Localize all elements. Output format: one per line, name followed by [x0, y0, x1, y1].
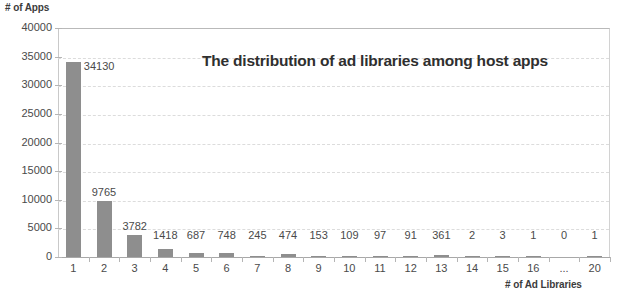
bar — [66, 62, 81, 257]
y-axis-title: # of Apps — [5, 2, 49, 13]
y-tick-label: 30000 — [2, 78, 52, 90]
bar — [465, 256, 480, 257]
bar — [373, 256, 388, 257]
y-tick-label: 25000 — [2, 107, 52, 119]
y-tick-label: 40000 — [2, 21, 52, 33]
x-tick-label: 20 — [575, 262, 615, 274]
y-tick-mark — [55, 57, 62, 58]
gridline — [58, 86, 609, 87]
bar — [526, 256, 541, 257]
bar — [158, 249, 173, 257]
y-tick-label: 15000 — [2, 164, 52, 176]
chart-title: The distribution of ad libraries among h… — [160, 52, 590, 70]
y-tick-mark — [55, 114, 62, 115]
bar-value-label: 9765 — [82, 186, 126, 198]
y-tick-mark — [55, 85, 62, 86]
bar — [434, 255, 449, 257]
bar — [250, 256, 265, 257]
bar — [219, 253, 234, 257]
x-axis-title: # of Ad Libraries — [505, 279, 582, 290]
y-tick-label: 10000 — [2, 193, 52, 205]
y-tick-mark — [55, 171, 62, 172]
y-tick-label: 5000 — [2, 221, 52, 233]
bar — [97, 201, 112, 257]
bar — [127, 235, 142, 257]
bar — [587, 256, 602, 257]
bar — [403, 256, 418, 257]
bar — [495, 256, 510, 257]
bar — [281, 254, 296, 257]
bar-chart: # of Apps 050001000015000200002500030000… — [0, 0, 618, 296]
gridline — [58, 172, 609, 173]
bar-value-label: 34130 — [84, 60, 130, 72]
gridline — [58, 201, 609, 202]
y-tick-mark — [55, 28, 62, 29]
y-tick-mark — [55, 228, 62, 229]
y-tick-label: 20000 — [2, 136, 52, 148]
bar — [189, 253, 204, 257]
y-tick-mark — [55, 200, 62, 201]
bar — [342, 256, 357, 257]
x-tick-mark — [610, 257, 611, 262]
bar-value-label: 1 — [573, 229, 617, 241]
gridline — [58, 144, 609, 145]
gridline — [58, 115, 609, 116]
bar — [311, 256, 326, 257]
y-tick-mark — [55, 143, 62, 144]
y-tick-label: 35000 — [2, 50, 52, 62]
y-tick-label: 0 — [2, 250, 52, 262]
y-tick-mark — [55, 257, 62, 258]
